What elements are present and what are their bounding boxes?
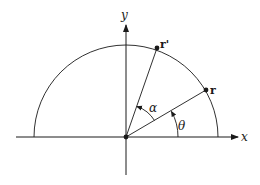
point-r-prime bbox=[155, 46, 160, 51]
point-r-label: r bbox=[210, 84, 216, 97]
radius-r-prime bbox=[126, 48, 157, 137]
theta-label: θ bbox=[178, 119, 186, 133]
radius-r bbox=[126, 90, 206, 137]
x-axis-label: x bbox=[241, 130, 248, 144]
y-axis-label: y bbox=[120, 8, 128, 22]
alpha-label: α bbox=[149, 101, 157, 115]
point-r-prime-label: r' bbox=[160, 38, 169, 51]
origin-point bbox=[124, 135, 129, 140]
rotation-diagram: y x r r' α θ bbox=[0, 0, 260, 185]
point-r bbox=[204, 88, 209, 93]
